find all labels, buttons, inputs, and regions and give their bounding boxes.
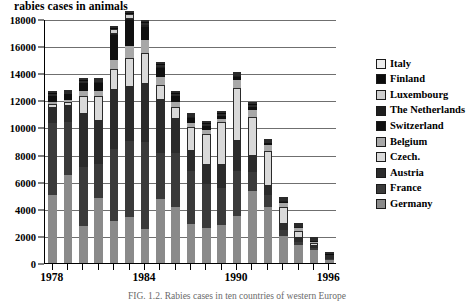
bar-1991[interactable]: [248, 102, 257, 263]
bar-segment-france: [233, 171, 242, 216]
x-axis-tick-label: 1990: [225, 271, 248, 283]
bar-segment-belgium: [156, 77, 165, 85]
bar-1992[interactable]: [264, 139, 273, 263]
bar-segment-austria: [233, 141, 242, 171]
bar-segment-switzerland: [156, 68, 165, 77]
bar-segment-czech: [217, 122, 226, 165]
bar-segment-austria: [171, 119, 180, 153]
y-axis-tick-label: 6000: [15, 177, 36, 188]
bar-1980[interactable]: [79, 78, 88, 263]
bar-1985[interactable]: [156, 62, 165, 263]
legend-item-label: Luxembourg: [390, 90, 448, 101]
bar-series-group: [45, 20, 336, 263]
legend-item-label: Czech.: [390, 152, 420, 163]
bar-segment-austria: [202, 165, 211, 184]
x-axis-tick: [67, 264, 68, 270]
bar-segment-france: [156, 153, 165, 199]
bar-1984[interactable]: [141, 20, 150, 264]
bar-segment-germany: [187, 224, 196, 263]
bar-1982[interactable]: [110, 26, 119, 263]
bar-1988[interactable]: [202, 121, 211, 263]
bar-1995[interactable]: [310, 237, 319, 263]
bar-1996[interactable]: [325, 252, 334, 263]
bar-segment-germany: [264, 207, 273, 263]
legend-item-switzerland[interactable]: Switzerland: [376, 118, 472, 134]
bar-segment-austria: [125, 87, 134, 141]
x-axis-tick-label: 1996: [317, 271, 340, 283]
bar-1978[interactable]: [48, 91, 57, 263]
y-axis: 0200040006000800010000120001400016000180…: [0, 20, 44, 264]
bar-segment-austria: [264, 186, 273, 195]
x-axis-tick: [221, 264, 222, 270]
legend-item-label: Austria: [390, 168, 424, 179]
y-axis-tick-label: 18000: [10, 15, 36, 26]
germany-swatch: [376, 199, 386, 209]
bar-segment-france: [171, 153, 180, 207]
bar-segment-france: [48, 123, 57, 195]
bar-segment-belgium: [141, 40, 150, 53]
figure-caption: FIG. 1.2. Rabies cases in ten countries …: [0, 291, 474, 301]
bar-segment-germany: [310, 250, 319, 263]
y-axis-tick-label: 12000: [10, 96, 36, 107]
bar-1986[interactable]: [171, 91, 180, 263]
legend-item-italy[interactable]: Italy: [376, 56, 472, 72]
austria-swatch: [376, 168, 386, 178]
legend-item-luxembourg[interactable]: Luxembourg: [376, 87, 472, 103]
legend-item-germany[interactable]: Germany: [376, 196, 472, 212]
bar-segment-germany: [325, 260, 334, 263]
plot-area: [44, 20, 336, 264]
legend-item-czech[interactable]: Czech.: [376, 150, 472, 166]
bar-segment-belgium: [125, 46, 134, 58]
bar-segment-france: [64, 122, 73, 175]
y-axis-tick-label: 2000: [15, 231, 36, 242]
legend-item-label: Germany: [390, 199, 433, 210]
bar-1983[interactable]: [125, 11, 134, 263]
bar-segment-germany: [248, 191, 257, 263]
x-axis-tick: [205, 264, 206, 270]
bar-segment-france: [264, 195, 273, 207]
bar-segment-switzerland: [110, 35, 119, 59]
bar-segment-france: [202, 184, 211, 227]
bar-1987[interactable]: [187, 113, 196, 263]
y-axis-tick-label: 4000: [15, 204, 36, 215]
bar-segment-germany: [110, 221, 119, 263]
bar-segment-germany: [79, 226, 88, 263]
legend-item-the-netherlands[interactable]: The Netherlands: [376, 103, 472, 119]
legend-item-belgium[interactable]: Belgium: [376, 134, 472, 150]
bar-1979[interactable]: [64, 90, 73, 263]
bar-1994[interactable]: [294, 223, 303, 263]
legend-item-france[interactable]: France: [376, 181, 472, 197]
bar-segment-belgium: [248, 110, 257, 117]
bar-1990[interactable]: [233, 72, 242, 263]
bar-segment-czech: [279, 207, 288, 223]
x-axis-tick-label: 1978: [40, 271, 63, 283]
czech-swatch: [376, 152, 386, 162]
x-axis-tick: [159, 264, 160, 270]
x-axis-tick: [328, 264, 329, 270]
y-axis-tick-label: 14000: [10, 69, 36, 80]
bar-segment-czech: [79, 96, 88, 114]
bar-segment-czech: [187, 127, 196, 150]
bar-segment-france: [79, 167, 88, 227]
legend-item-finland[interactable]: Finland: [376, 72, 472, 88]
bar-segment-czech: [94, 96, 103, 120]
bar-segment-france: [141, 142, 150, 229]
finland-swatch: [376, 74, 386, 84]
bar-segment-france: [217, 188, 226, 225]
bar-segment-france: [125, 141, 134, 217]
luxembourg-swatch: [376, 90, 386, 100]
bar-segment-austria: [94, 121, 103, 164]
x-axis-tick: [298, 264, 299, 270]
bar-1993[interactable]: [279, 197, 288, 263]
legend-item-label: Finland: [390, 74, 425, 85]
bar-segment-czech: [110, 69, 119, 89]
belgium-swatch: [376, 137, 386, 147]
legend-item-austria[interactable]: Austria: [376, 165, 472, 181]
x-axis-tick: [52, 264, 53, 270]
bar-segment-austria: [79, 114, 88, 167]
y-axis-tick-label: 10000: [10, 123, 36, 134]
netherlands-swatch: [376, 106, 386, 116]
bar-1981[interactable]: [94, 78, 103, 263]
bar-segment-czech: [156, 85, 165, 100]
bar-1989[interactable]: [217, 111, 226, 263]
